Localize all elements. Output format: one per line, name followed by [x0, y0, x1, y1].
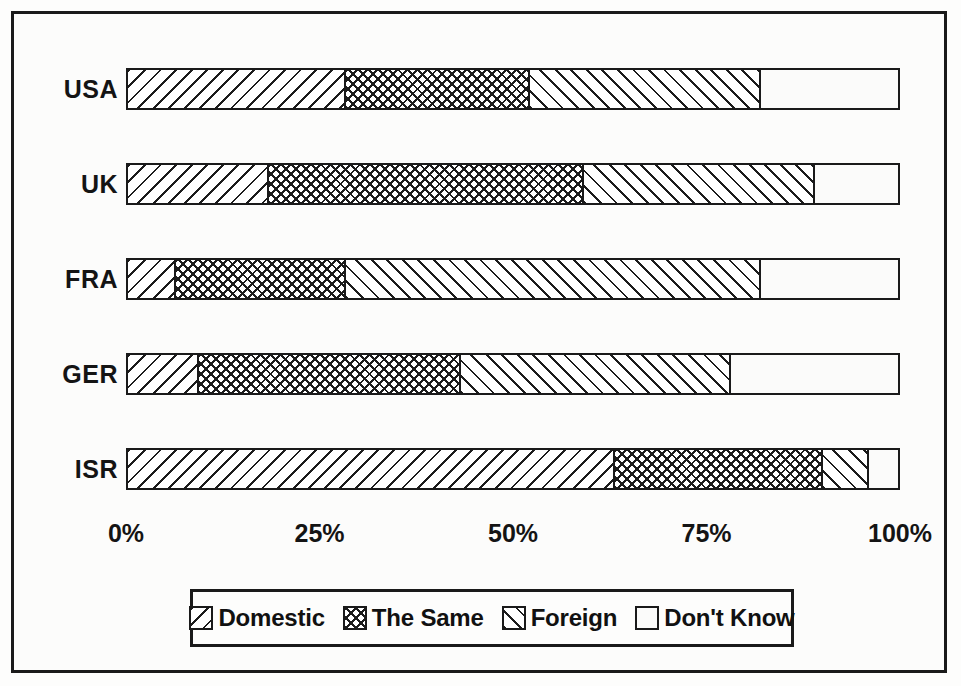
bar-segment-don-t-know: [759, 70, 898, 108]
legend-swatch-icon: [502, 606, 526, 630]
x-tick-label-0: 0%: [108, 519, 144, 548]
category-label-isr: ISR: [0, 448, 126, 490]
bar-row-isr: ISR: [126, 448, 900, 490]
stacked-bar: [126, 258, 900, 300]
bar-segment-foreign: [528, 70, 759, 108]
legend-item-domestic: Domestic: [189, 604, 324, 632]
plot-area: USAUKFRAGERISR: [126, 54, 900, 514]
legend-item-the-same: The Same: [343, 604, 484, 632]
category-label-fra: FRA: [0, 258, 126, 300]
x-tick-label-100: 100%: [868, 519, 932, 548]
chart-frame: USAUKFRAGERISR 0%25%50%75%100% DomesticT…: [11, 11, 947, 673]
stacked-bar: [126, 163, 900, 205]
category-label-usa: USA: [0, 68, 126, 110]
legend-label: Foreign: [531, 604, 618, 632]
bar-segment-don-t-know: [867, 450, 898, 488]
x-tick-label-75: 75%: [681, 519, 731, 548]
bar-segment-domestic: [128, 355, 197, 393]
legend-swatch-icon: [343, 606, 367, 630]
bar-segment-the-same: [267, 165, 583, 203]
legend-label: Domestic: [218, 604, 324, 632]
bar-segment-domestic: [128, 165, 267, 203]
bar-segment-domestic: [128, 260, 174, 298]
bar-row-usa: USA: [126, 68, 900, 110]
category-label-uk: UK: [0, 163, 126, 205]
stacked-bar: [126, 353, 900, 395]
x-tick-label-50: 50%: [488, 519, 538, 548]
bar-segment-the-same: [174, 260, 343, 298]
bar-segment-the-same: [197, 355, 459, 393]
bar-segment-foreign: [821, 450, 867, 488]
bar-segment-don-t-know: [729, 355, 898, 393]
x-tick-label-25: 25%: [294, 519, 344, 548]
bar-row-uk: UK: [126, 163, 900, 205]
legend-swatch-icon: [635, 606, 659, 630]
stacked-bar: [126, 448, 900, 490]
stacked-bar: [126, 68, 900, 110]
bar-row-ger: GER: [126, 353, 900, 395]
legend-item-foreign: Foreign: [502, 604, 618, 632]
bar-row-fra: FRA: [126, 258, 900, 300]
bar-segment-foreign: [582, 165, 813, 203]
bar-segment-domestic: [128, 450, 613, 488]
chart-figure: USAUKFRAGERISR 0%25%50%75%100% DomesticT…: [0, 0, 961, 686]
legend-label: The Same: [372, 604, 484, 632]
category-label-ger: GER: [0, 353, 126, 395]
bar-segment-foreign: [459, 355, 729, 393]
bar-segment-the-same: [344, 70, 529, 108]
bar-segment-foreign: [344, 260, 760, 298]
bar-segment-the-same: [613, 450, 821, 488]
x-axis: 0%25%50%75%100%: [126, 519, 900, 553]
legend-swatch-icon: [189, 606, 213, 630]
legend-label: Don't Know: [664, 604, 794, 632]
bar-segment-don-t-know: [759, 260, 898, 298]
legend-item-don-t-know: Don't Know: [635, 604, 794, 632]
bar-segment-domestic: [128, 70, 344, 108]
bar-segment-don-t-know: [813, 165, 898, 203]
chart-legend: DomesticThe SameForeignDon't Know: [190, 589, 794, 647]
